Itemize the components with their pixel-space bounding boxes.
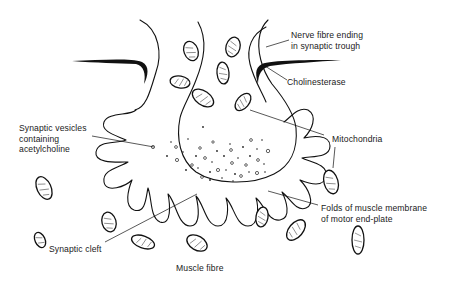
label-synaptic-vesicles: Synaptic vesicles containing acetylcholi…	[19, 123, 87, 155]
synaptic-vesicles	[151, 126, 269, 182]
nerve-outer-membrane-left	[135, 20, 159, 110]
muscle-membrane-folds	[96, 109, 330, 226]
label-nerve-fibre-ending: Nerve fibre ending in synaptic trough	[291, 30, 363, 51]
cholinesterase-streak-left	[72, 60, 148, 84]
label-cholinesterase: Cholinesterase	[287, 77, 346, 88]
label-synaptic-cleft: Synaptic cleft	[49, 244, 102, 255]
label-folds-of-muscle-membrane: Folds of muscle membrane of motor end-pl…	[321, 203, 427, 224]
label-mitochondria: Mitochondria	[332, 134, 382, 145]
motor-end-plate-diagram: Nerve fibre ending in synaptic trough Ch…	[0, 0, 456, 283]
label-muscle-fibre: Muscle fibre	[176, 263, 224, 274]
